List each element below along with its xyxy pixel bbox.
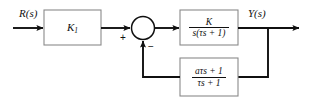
feedback-block-label: aτs + 1 τs + 1: [180, 58, 238, 96]
forward-block-label: K s(τs + 1): [180, 10, 238, 45]
input-signal-label: R(s): [19, 8, 37, 19]
output-signal-label: Y(s): [248, 8, 266, 19]
feedback-block-denominator: τs + 1: [192, 77, 226, 88]
forward-block-denominator: s(τs + 1): [189, 27, 228, 38]
summing-junction-minus-sign: −: [148, 42, 154, 52]
summing-junction-plus-sign: +: [120, 33, 126, 43]
forward-block-numerator: K: [189, 17, 228, 27]
gain-block-subscript: 1: [74, 25, 78, 34]
summing-junction-circle: [132, 17, 155, 40]
gain-block-label: K1: [44, 10, 101, 45]
feedback-block-numerator: aτs + 1: [192, 66, 226, 76]
block-diagram: R(s) Y(s) + − K1 K s(τs + 1) aτs + 1 τs …: [0, 0, 312, 103]
takeoff-to-feedback-path: [238, 28, 268, 77]
